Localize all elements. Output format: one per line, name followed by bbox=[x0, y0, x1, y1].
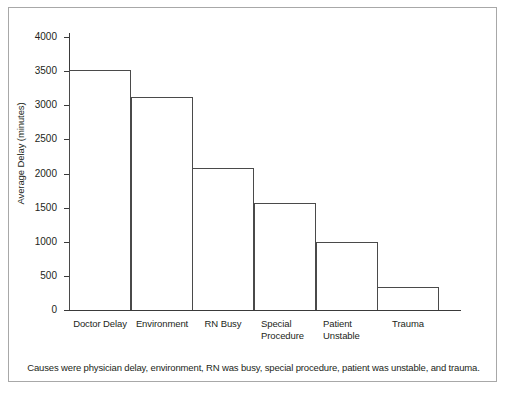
y-tick-label: 500 bbox=[15, 271, 57, 281]
x-tick-label: Environment bbox=[131, 318, 193, 330]
x-tick-label-line: Special bbox=[261, 318, 316, 330]
x-tick-label: PatientUnstable bbox=[316, 318, 378, 342]
x-tick-label-line: Trauma bbox=[377, 318, 439, 330]
x-axis-line bbox=[69, 310, 461, 311]
y-axis-title: Average Delay (minutes) bbox=[15, 64, 26, 244]
x-tick-label-line: Procedure bbox=[261, 330, 316, 342]
x-tick-label: SpecialProcedure bbox=[254, 318, 316, 342]
y-tick-mark bbox=[64, 37, 70, 38]
x-tick-label-line: Unstable bbox=[323, 330, 378, 342]
x-tick-label-line: Doctor Delay bbox=[69, 318, 131, 330]
y-tick-label: 0 bbox=[15, 305, 57, 315]
x-tick-label: Trauma bbox=[377, 318, 439, 330]
y-tick-label: 2500 bbox=[15, 134, 57, 144]
bar bbox=[69, 70, 131, 310]
x-tick-label: RN Busy bbox=[192, 318, 254, 330]
y-tick-label: 1500 bbox=[15, 203, 57, 213]
bar bbox=[377, 287, 439, 310]
bar bbox=[131, 97, 193, 310]
x-tick-label: Doctor Delay bbox=[69, 318, 131, 330]
y-tick-label: 3500 bbox=[15, 66, 57, 76]
y-tick-label: 2000 bbox=[15, 169, 57, 179]
figure-frame: Average Delay (minutes) 0500100015002000… bbox=[8, 7, 497, 382]
x-tick-label-line: Environment bbox=[131, 318, 193, 330]
bar bbox=[316, 242, 378, 310]
y-tick-mark bbox=[64, 310, 70, 311]
x-tick-label-line: RN Busy bbox=[192, 318, 254, 330]
y-tick-label: 4000 bbox=[15, 32, 57, 42]
y-tick-label: 1000 bbox=[15, 237, 57, 247]
figure-caption: Causes were physician delay, environment… bbox=[9, 362, 498, 373]
bar bbox=[254, 203, 316, 310]
x-tick-label-line: Patient bbox=[323, 318, 378, 330]
y-tick-label: 3000 bbox=[15, 100, 57, 110]
bar-chart-plot: Average Delay (minutes) 0500100015002000… bbox=[9, 8, 498, 383]
bar bbox=[192, 168, 254, 310]
